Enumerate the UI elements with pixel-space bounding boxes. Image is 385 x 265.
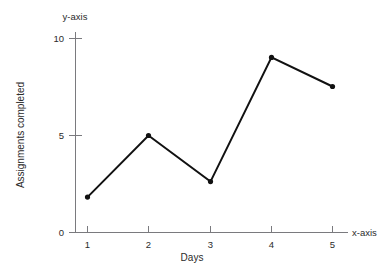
data-point-marker bbox=[208, 179, 213, 184]
series-line-assignments-completed bbox=[88, 57, 333, 197]
y-tick-label-0: 0 bbox=[59, 227, 64, 238]
y-tick-label-5: 5 bbox=[59, 130, 64, 141]
data-point-marker bbox=[330, 84, 335, 89]
y-tick-label-10: 10 bbox=[53, 33, 64, 44]
plot-area: 0 5 10 1 2 3 4 5 y-axis x-axis Assignmen… bbox=[0, 0, 385, 265]
data-point-marker bbox=[85, 195, 90, 200]
x-tick-label-4: 4 bbox=[269, 239, 274, 250]
x-tick-label-3: 3 bbox=[208, 239, 213, 250]
y-axis-annotation-label: y-axis bbox=[63, 11, 88, 22]
x-tick-label-2: 2 bbox=[146, 239, 151, 250]
x-tick-label-1: 1 bbox=[85, 239, 90, 250]
data-point-marker bbox=[269, 55, 274, 60]
line-chart-figure: 0 5 10 1 2 3 4 5 y-axis x-axis Assignmen… bbox=[0, 0, 385, 265]
data-point-marker bbox=[146, 133, 151, 138]
x-axis-title: Days bbox=[181, 252, 204, 263]
x-axis-annotation-label: x-axis bbox=[352, 227, 377, 238]
x-tick-label-5: 5 bbox=[330, 239, 335, 250]
y-axis-title: Assignments completed bbox=[15, 82, 26, 188]
